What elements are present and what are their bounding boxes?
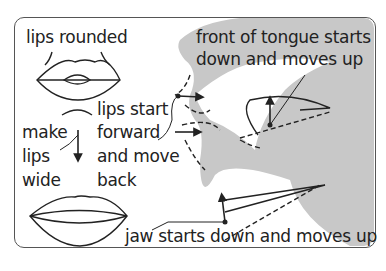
- label-jaw: jaw starts down and moves up: [125, 226, 377, 246]
- label-lips-start-2: forward: [97, 122, 160, 142]
- label-lips-rounded: lips rounded: [26, 27, 128, 47]
- wide-lips-drawing: [30, 196, 127, 246]
- label-tongue-1: front of tongue starts: [196, 27, 371, 47]
- label-lips-start-4: back: [97, 170, 136, 190]
- label-make-2: lips: [22, 146, 50, 166]
- label-lips-start-1: lips start: [97, 99, 168, 119]
- label-make-3: wide: [22, 170, 61, 190]
- label-tongue-2: down and moves up: [196, 49, 363, 69]
- label-lips-start-3: and move: [97, 146, 179, 166]
- label-make-1: make: [22, 122, 67, 142]
